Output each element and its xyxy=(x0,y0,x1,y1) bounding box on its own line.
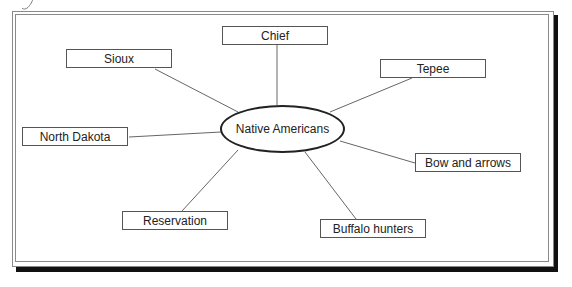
connector-sioux xyxy=(155,69,238,112)
node-label: Chief xyxy=(261,29,289,43)
center-node-native-americans: Native Americans xyxy=(220,105,345,153)
connector-north-dakota xyxy=(129,132,221,137)
node-label: Bow and arrows xyxy=(425,156,511,170)
connector-bow-and-arrows xyxy=(340,141,415,163)
node-bow-and-arrows: Bow and arrows xyxy=(415,153,521,172)
node-label: North Dakota xyxy=(40,130,111,144)
node-label: Reservation xyxy=(143,214,207,228)
node-buffalo-hunters: Buffalo hunters xyxy=(320,219,426,238)
node-chief: Chief xyxy=(222,26,328,45)
node-tepee: Tepee xyxy=(380,59,486,78)
connector-reservation xyxy=(182,150,238,211)
connector-buffalo-hunters xyxy=(305,152,356,219)
node-label: Buffalo hunters xyxy=(333,222,414,236)
node-label: Sioux xyxy=(104,52,134,66)
center-node-label: Native Americans xyxy=(236,122,329,136)
connector-tepee xyxy=(330,78,412,112)
node-sioux: Sioux xyxy=(66,49,172,68)
node-reservation: Reservation xyxy=(122,211,228,230)
node-label: Tepee xyxy=(417,62,450,76)
node-north-dakota: North Dakota xyxy=(22,127,128,146)
